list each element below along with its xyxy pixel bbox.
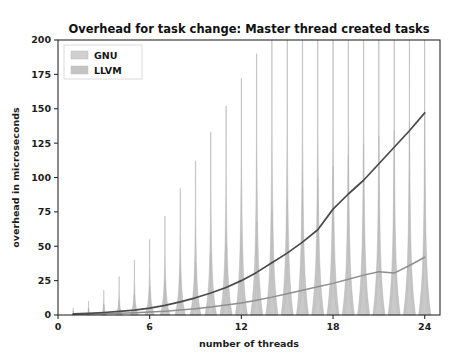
x-tick-label-0: 0 — [55, 321, 62, 332]
x-tick-label-24: 24 — [418, 321, 432, 332]
y-tick-label-0: 0 — [44, 309, 51, 320]
y-tick-label-150: 150 — [31, 103, 51, 114]
y-tick-label-100: 100 — [31, 172, 51, 183]
violin-plot-canvas: 06121824 0255075100125150175200 Overhead… — [0, 0, 466, 356]
y-tick-label-25: 25 — [38, 275, 51, 286]
x-tick-label-18: 18 — [326, 321, 340, 332]
plot-background — [58, 40, 440, 315]
y-axis-label: overhead in microseconds — [10, 107, 21, 248]
chart-figure: 06121824 0255075100125150175200 Overhead… — [0, 0, 466, 356]
y-tick-label-200: 200 — [31, 34, 51, 45]
chart-title: Overhead for task change: Master thread … — [69, 22, 430, 36]
legend-swatch-gnu — [71, 51, 88, 59]
y-tick-label-75: 75 — [38, 206, 51, 217]
x-tick-label-12: 12 — [235, 321, 248, 332]
legend-label-gnu: GNU — [94, 50, 117, 61]
y-tick-label-175: 175 — [31, 69, 51, 80]
x-axis-label: number of threads — [199, 338, 299, 349]
legend: GNU LLVM — [64, 45, 142, 79]
legend-swatch-llvm — [71, 66, 88, 74]
y-tick-label-125: 125 — [31, 138, 51, 149]
legend-label-llvm: LLVM — [94, 65, 122, 76]
x-tick-label-6: 6 — [146, 321, 153, 332]
y-tick-label-50: 50 — [38, 241, 52, 252]
